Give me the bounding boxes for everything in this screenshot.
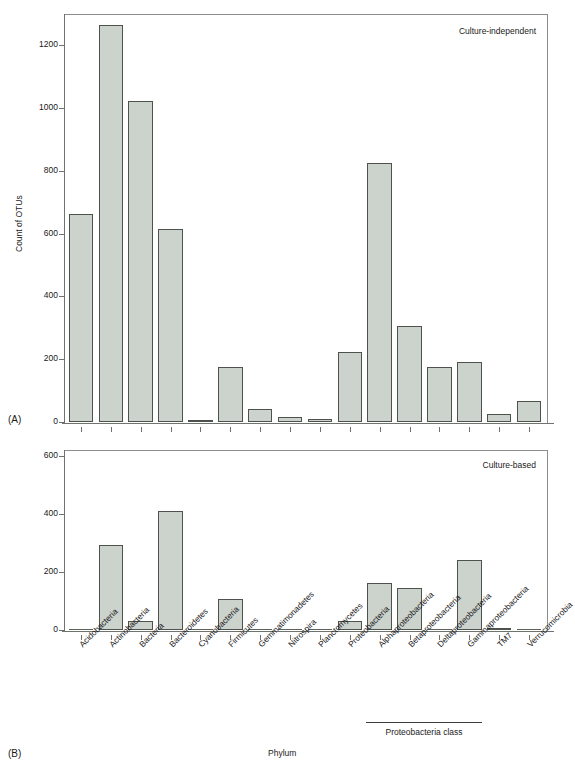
x-axis-tick	[380, 427, 381, 432]
x-axis-tick	[141, 427, 142, 432]
y-axis-tick	[59, 171, 64, 172]
bar	[158, 229, 182, 422]
proteobacteria-class-label: Proteobacteria class	[385, 727, 462, 737]
y-axis-tick	[59, 108, 64, 109]
y-axis-tick-label: 400	[18, 290, 58, 300]
bar	[188, 420, 212, 423]
x-axis-tick	[200, 427, 201, 432]
y-axis-tick-label: 600	[18, 450, 58, 460]
bar	[338, 352, 362, 422]
x-axis-tick	[230, 427, 231, 432]
bar	[517, 401, 541, 422]
bar	[158, 511, 182, 630]
y-axis-tick	[59, 296, 64, 297]
y-axis-tick-label: 0	[18, 416, 58, 426]
x-axis-tick	[439, 427, 440, 432]
bar	[218, 367, 242, 422]
x-axis-tick	[410, 427, 411, 432]
proteobacteria-class-bracket	[366, 722, 483, 723]
y-axis-tick-label: 200	[18, 353, 58, 363]
x-axis-tick	[171, 427, 172, 432]
bar	[367, 163, 391, 422]
bar	[248, 409, 272, 422]
panel-a-plot-area	[66, 14, 544, 422]
y-axis-tick-label: 800	[18, 165, 58, 175]
bar	[308, 419, 332, 422]
panel-a-y-axis-label: Count of OTUs	[14, 195, 24, 252]
y-axis-tick	[59, 45, 64, 46]
x-axis-tick	[260, 427, 261, 432]
y-axis-line	[64, 14, 65, 424]
x-axis-title: Phylum	[268, 748, 296, 758]
x-axis-tick	[499, 427, 500, 432]
y-axis-tick	[59, 234, 64, 235]
y-axis-tick-label: 600	[18, 228, 58, 238]
x-axis-tick	[111, 427, 112, 432]
bar	[128, 101, 152, 422]
y-axis-tick	[59, 456, 64, 457]
y-axis-tick-label: 400	[18, 508, 58, 518]
x-axis-tick	[320, 427, 321, 432]
x-axis-tick	[350, 427, 351, 432]
bar	[457, 362, 481, 422]
bar	[99, 25, 123, 422]
bar	[69, 214, 93, 422]
bar	[487, 414, 511, 422]
y-axis-tick-label: 200	[18, 566, 58, 576]
x-axis-tick	[290, 427, 291, 432]
y-axis-tick-label: 0	[18, 624, 58, 634]
x-axis-tick	[469, 427, 470, 432]
y-axis-tick	[59, 572, 64, 573]
y-axis-tick-label: 1200	[18, 39, 58, 49]
x-axis-tick	[81, 427, 82, 432]
bar	[397, 326, 421, 422]
panel-b-letter: (B)	[8, 748, 21, 759]
x-axis-tick	[529, 427, 530, 432]
bar	[278, 417, 302, 422]
y-axis-tick	[59, 359, 64, 360]
x-axis-line	[62, 423, 554, 424]
x-axis-category-label: TM7	[495, 630, 514, 649]
y-axis-tick-label: 1000	[18, 102, 58, 112]
bar	[427, 367, 451, 422]
y-axis-tick	[59, 514, 64, 515]
y-axis-line	[64, 450, 65, 632]
panel-a-letter: (A)	[8, 414, 21, 425]
